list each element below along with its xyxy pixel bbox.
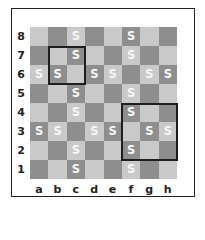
square-a5 bbox=[30, 84, 48, 103]
square-d8 bbox=[85, 27, 103, 46]
piece-s: S bbox=[72, 88, 80, 100]
square-g5 bbox=[140, 84, 158, 103]
square-h3: S bbox=[159, 122, 177, 141]
square-f8: S bbox=[122, 27, 140, 46]
square-a4 bbox=[30, 103, 48, 122]
square-a3: S bbox=[30, 122, 48, 141]
file-label: d bbox=[85, 183, 103, 196]
square-h6: S bbox=[159, 65, 177, 84]
square-a1 bbox=[30, 160, 48, 179]
square-e6: S bbox=[104, 65, 122, 84]
rank-label: 7 bbox=[15, 49, 27, 62]
square-a6: S bbox=[30, 65, 48, 84]
rank-label: 1 bbox=[15, 163, 27, 176]
rank-label: 5 bbox=[15, 87, 27, 100]
square-g8 bbox=[140, 27, 158, 46]
square-e8 bbox=[104, 27, 122, 46]
square-f4: S bbox=[122, 103, 140, 122]
square-h5 bbox=[159, 84, 177, 103]
square-a7 bbox=[30, 46, 48, 65]
piece-s: S bbox=[145, 69, 153, 81]
square-f2: S bbox=[122, 141, 140, 160]
square-d2 bbox=[85, 141, 103, 160]
piece-s: S bbox=[72, 50, 80, 62]
square-c6 bbox=[67, 65, 85, 84]
square-d1 bbox=[85, 160, 103, 179]
file-label: h bbox=[159, 183, 177, 196]
square-b5 bbox=[48, 84, 66, 103]
rank-label: 6 bbox=[15, 68, 27, 81]
square-c5: S bbox=[67, 84, 85, 103]
piece-s: S bbox=[53, 126, 61, 138]
piece-s: S bbox=[90, 69, 98, 81]
piece-s: S bbox=[53, 69, 61, 81]
piece-s: S bbox=[90, 126, 98, 138]
square-a2 bbox=[30, 141, 48, 160]
square-e5 bbox=[104, 84, 122, 103]
square-b4 bbox=[48, 103, 66, 122]
piece-s: S bbox=[127, 145, 135, 157]
square-f1: S bbox=[122, 160, 140, 179]
piece-s: S bbox=[109, 69, 117, 81]
file-label: a bbox=[30, 183, 48, 196]
square-e3: S bbox=[104, 122, 122, 141]
square-c7: S bbox=[67, 46, 85, 65]
square-h8 bbox=[159, 27, 177, 46]
square-g7 bbox=[140, 46, 158, 65]
piece-s: S bbox=[72, 145, 80, 157]
piece-s: S bbox=[72, 107, 80, 119]
piece-s: S bbox=[127, 88, 135, 100]
file-label: c bbox=[67, 183, 85, 196]
piece-s: S bbox=[127, 31, 135, 43]
file-label: f bbox=[122, 183, 140, 196]
square-h7 bbox=[159, 46, 177, 65]
piece-s: S bbox=[35, 126, 43, 138]
square-e4 bbox=[104, 103, 122, 122]
square-c4: S bbox=[67, 103, 85, 122]
piece-s: S bbox=[164, 126, 172, 138]
square-c3 bbox=[67, 122, 85, 141]
square-g6: S bbox=[140, 65, 158, 84]
piece-s: S bbox=[145, 126, 153, 138]
rank-label: 8 bbox=[15, 30, 27, 43]
square-d4 bbox=[85, 103, 103, 122]
chess-board: SSSSSSSSSSSSSSSSSSSSSSSS bbox=[30, 27, 177, 179]
square-b2 bbox=[48, 141, 66, 160]
square-e2 bbox=[104, 141, 122, 160]
piece-s: S bbox=[127, 164, 135, 176]
file-label: g bbox=[140, 183, 158, 196]
square-h2 bbox=[159, 141, 177, 160]
rank-label: 3 bbox=[15, 125, 27, 138]
rank-label: 2 bbox=[15, 144, 27, 157]
square-f3 bbox=[122, 122, 140, 141]
square-d5 bbox=[85, 84, 103, 103]
square-b1 bbox=[48, 160, 66, 179]
square-f5: S bbox=[122, 84, 140, 103]
square-g3: S bbox=[140, 122, 158, 141]
piece-s: S bbox=[35, 69, 43, 81]
square-d7 bbox=[85, 46, 103, 65]
piece-s: S bbox=[164, 69, 172, 81]
square-h4 bbox=[159, 103, 177, 122]
piece-s: S bbox=[127, 50, 135, 62]
square-f7: S bbox=[122, 46, 140, 65]
piece-s: S bbox=[72, 31, 80, 43]
square-d6: S bbox=[85, 65, 103, 84]
rank-label: 4 bbox=[15, 106, 27, 119]
square-c2: S bbox=[67, 141, 85, 160]
square-h1 bbox=[159, 160, 177, 179]
square-c1: S bbox=[67, 160, 85, 179]
square-e7 bbox=[104, 46, 122, 65]
square-d3: S bbox=[85, 122, 103, 141]
square-c8: S bbox=[67, 27, 85, 46]
square-g2 bbox=[140, 141, 158, 160]
file-label: b bbox=[48, 183, 66, 196]
file-label: e bbox=[104, 183, 122, 196]
square-g1 bbox=[140, 160, 158, 179]
square-b7 bbox=[48, 46, 66, 65]
square-a8 bbox=[30, 27, 48, 46]
square-b8 bbox=[48, 27, 66, 46]
piece-s: S bbox=[72, 164, 80, 176]
square-f6 bbox=[122, 65, 140, 84]
square-b3: S bbox=[48, 122, 66, 141]
